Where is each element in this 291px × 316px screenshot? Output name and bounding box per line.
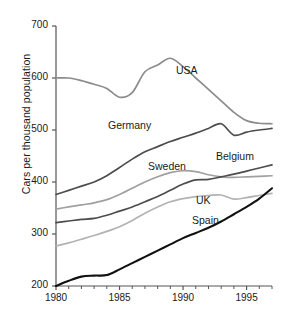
y-tick-label: 300: [20, 227, 48, 238]
series-label-uk: UK: [196, 194, 211, 206]
series-line-usa: [56, 58, 272, 124]
series-label-sweden: Sweden: [148, 160, 186, 172]
x-tick-label: 1995: [227, 292, 267, 303]
series-label-germany: Germany: [108, 119, 151, 131]
y-tick-label: 400: [20, 175, 48, 186]
series-label-usa: USA: [176, 64, 198, 76]
x-tick-label: 1980: [36, 292, 76, 303]
series-label-belgium: Belgium: [216, 150, 254, 162]
series-line-sweden: [56, 171, 272, 210]
y-tick-label: 200: [20, 279, 48, 290]
series-label-spain: Spain: [192, 214, 219, 226]
series-line-belgium: [56, 165, 272, 223]
y-tick-label: 700: [20, 19, 48, 30]
y-tick-label: 600: [20, 71, 48, 82]
x-tick-label: 1990: [163, 292, 203, 303]
data-series-group: [56, 58, 272, 286]
x-tick-label: 1985: [100, 292, 140, 303]
chart-container: Cars per thousand population 20030040050…: [0, 0, 291, 316]
y-tick-label: 500: [20, 123, 48, 134]
